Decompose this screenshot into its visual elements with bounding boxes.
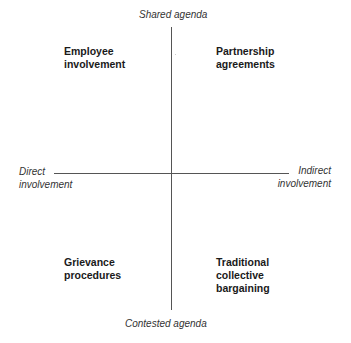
axis-label-contested-agenda: Contested agenda (125, 318, 207, 330)
quadrant-label-grievance-procedures: Grievance procedures (64, 256, 121, 282)
axis-label-direct-involvement-line1: Direct (19, 166, 45, 178)
vertical-axis-line (171, 27, 172, 310)
quadrant-label-partnership-agreements: Partnership agreements (216, 45, 275, 71)
horizontal-axis-line (54, 173, 289, 174)
axis-label-direct-involvement-line2: involvement (19, 179, 72, 191)
axis-label-indirect-involvement-line1: Indirect (298, 165, 331, 177)
quadrant-label-traditional-collective-bargaining: Traditional collective bargaining (216, 256, 270, 295)
axis-label-indirect-involvement-line2: involvement (278, 178, 331, 190)
stray-dot (175, 54, 176, 55)
axis-label-shared-agenda: Shared agenda (139, 9, 207, 21)
quadrant-label-employee-involvement: Employee involvement (64, 45, 125, 71)
